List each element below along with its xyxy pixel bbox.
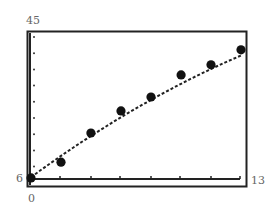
- y-tick: [33, 133, 35, 135]
- data-point: [26, 173, 35, 182]
- data-point: [177, 70, 186, 79]
- y-tick: [33, 166, 35, 168]
- data-point: [86, 128, 95, 137]
- data-point: [236, 45, 245, 54]
- y-tick: [33, 68, 35, 70]
- y-tick: [33, 52, 35, 54]
- chart-plot-area: [0, 0, 266, 206]
- data-point: [206, 60, 215, 69]
- data-point: [116, 106, 125, 115]
- y-tick: [33, 149, 35, 151]
- data-points: [26, 45, 245, 182]
- y-tick: [33, 117, 35, 119]
- y-tick: [33, 36, 35, 38]
- data-point: [56, 158, 65, 167]
- y-tick: [33, 85, 35, 87]
- data-point: [146, 92, 155, 101]
- y-tick: [33, 101, 35, 103]
